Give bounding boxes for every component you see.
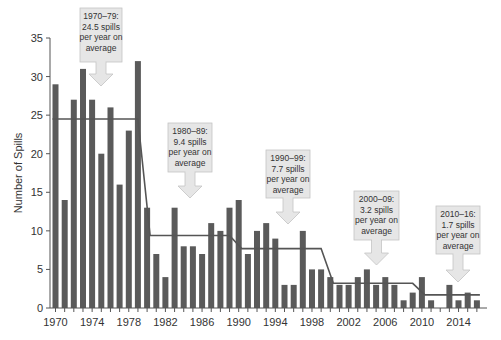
- y-tick-label: 10: [31, 225, 43, 237]
- x-tick-label: 1982: [153, 316, 177, 328]
- bar-2006: [382, 277, 388, 308]
- bar-2004: [364, 269, 370, 308]
- bar-1998: [309, 269, 315, 308]
- bar-1991: [245, 254, 251, 308]
- callout-3: 1990–99:7.7 spillsper year onaverage: [266, 150, 310, 224]
- bar-1990: [236, 200, 242, 308]
- bar-1989: [227, 208, 233, 308]
- bar-1992: [254, 231, 260, 308]
- bar-2002: [346, 285, 352, 308]
- callout-text-line: average: [86, 43, 117, 53]
- y-axis-title: Number of Spills: [12, 132, 24, 213]
- bar-2011: [428, 300, 434, 308]
- bar-1996: [291, 285, 297, 308]
- callout-2: 1980–89:9.4 spillsper year onaverage: [168, 123, 212, 198]
- y-tick-label: 0: [37, 302, 43, 314]
- bar-1976: [108, 107, 114, 308]
- callout-text-line: 2000–09:: [359, 194, 394, 204]
- y-tick-label: 5: [37, 263, 43, 275]
- callout-text-line: 2010–16:: [440, 209, 475, 219]
- x-tick-label: 1994: [263, 316, 287, 328]
- callout-text-line: per year on: [169, 147, 212, 157]
- callout-4: 2000–09:3.2 spillsper year onaverage: [354, 191, 399, 265]
- bar-1970: [53, 84, 59, 308]
- down-arrow-icon: [446, 253, 470, 282]
- bar-2003: [355, 277, 361, 308]
- x-tick-label: 1990: [226, 316, 250, 328]
- x-axis-ticks: 1970197419781982198619901994199820022006…: [43, 308, 477, 328]
- x-tick-label: 1974: [80, 316, 104, 328]
- y-axis-ticks: 05101520253035: [31, 32, 50, 314]
- bar-1984: [181, 246, 187, 308]
- bar-2008: [401, 300, 407, 308]
- x-tick-label: 1998: [300, 316, 324, 328]
- callout-text-line: average: [273, 185, 304, 195]
- x-tick-label: 2014: [446, 316, 470, 328]
- callout-text-line: average: [175, 158, 206, 168]
- y-tick-label: 15: [31, 186, 43, 198]
- x-tick-label: 2010: [410, 316, 434, 328]
- y-tick-label: 35: [31, 32, 43, 44]
- callout-text-line: 24.5 spills: [82, 22, 120, 32]
- bar-2013: [446, 285, 452, 308]
- callout-text-line: per year on: [80, 32, 123, 42]
- bar-1986: [199, 254, 205, 308]
- callout-text-line: 9.4 spills: [173, 137, 206, 147]
- callout-text-line: average: [361, 226, 392, 236]
- bar-1982: [162, 277, 168, 308]
- bar-2016: [474, 300, 480, 308]
- callout-text-line: per year on: [437, 230, 480, 240]
- y-tick-label: 25: [31, 109, 43, 121]
- callout-text-line: 1980–89:: [172, 126, 207, 136]
- x-tick-label: 1986: [190, 316, 214, 328]
- callout-5: 2010–16:1.7 spillsper year onaverage: [436, 206, 480, 282]
- bar-1979: [135, 61, 141, 308]
- bar-1997: [300, 231, 306, 308]
- bar-1977: [117, 185, 123, 308]
- x-tick-label: 2006: [373, 316, 397, 328]
- x-tick-label: 1970: [43, 316, 67, 328]
- bar-2014: [456, 300, 462, 308]
- callout-text-line: per year on: [355, 215, 398, 225]
- callout-text-line: average: [443, 241, 474, 251]
- bar-1985: [190, 246, 196, 308]
- bar-2001: [337, 285, 343, 308]
- callout-text-line: 3.2 spills: [360, 205, 393, 215]
- callout-text-line: 1.7 spills: [441, 220, 474, 230]
- callout-text-line: 1970–79:: [83, 11, 118, 21]
- down-arrow-icon: [178, 171, 202, 198]
- callout-text-line: 1990–99:: [270, 153, 305, 163]
- x-tick-label: 2002: [336, 316, 360, 328]
- bar-1975: [98, 154, 104, 308]
- bar-1974: [89, 100, 95, 308]
- bar-1993: [263, 223, 269, 308]
- oil-spills-bar-chart: 05101520253035 1970197419781982198619901…: [0, 0, 501, 340]
- bar-1995: [282, 285, 288, 308]
- down-arrow-icon: [89, 61, 113, 86]
- down-arrow-icon: [365, 239, 389, 265]
- bar-1973: [80, 69, 86, 308]
- bar-1978: [126, 131, 132, 308]
- bar-1972: [71, 100, 77, 308]
- bar-1981: [153, 254, 159, 308]
- bar-2009: [410, 293, 416, 308]
- bar-1983: [172, 208, 178, 308]
- callout-text-line: per year on: [267, 174, 310, 184]
- bar-1988: [217, 231, 223, 308]
- bar-1971: [62, 200, 68, 308]
- y-tick-label: 30: [31, 71, 43, 83]
- down-arrow-icon: [276, 197, 300, 224]
- x-tick-label: 1978: [117, 316, 141, 328]
- callout-text-line: 7.7 spills: [271, 164, 304, 174]
- y-tick-label: 20: [31, 148, 43, 160]
- bar-1999: [318, 269, 324, 308]
- bar-2007: [391, 285, 397, 308]
- bar-2005: [373, 285, 379, 308]
